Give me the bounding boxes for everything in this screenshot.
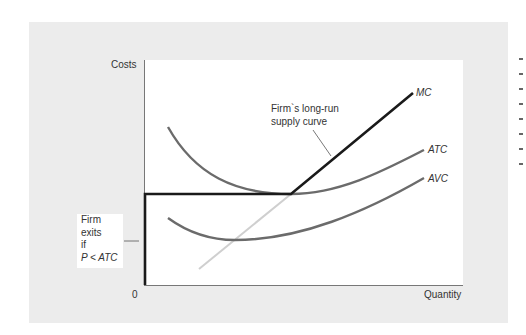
exit-line-3: if <box>77 239 123 252</box>
cost-curves-chart <box>0 0 526 335</box>
avc-label: AVC <box>428 173 448 184</box>
mc-label: MC <box>416 87 432 98</box>
supply-annotation-line2: supply curve <box>271 116 327 127</box>
exit-line-4: P < ATC <box>77 252 123 265</box>
origin-label: 0 <box>132 289 138 300</box>
cropped-caption-text <box>519 58 526 178</box>
atc-label: ATC <box>428 144 447 155</box>
exit-annotation: Firm exits if P < ATC <box>77 214 123 268</box>
supply-leader-line <box>313 130 331 156</box>
exit-line-2: exits <box>77 227 123 240</box>
avc-curve <box>168 178 424 240</box>
atc-curve <box>168 127 424 194</box>
x-axis-label: Quantity <box>424 289 461 300</box>
mc-curve-lower <box>199 194 291 269</box>
y-axis-label: Costs <box>111 59 137 70</box>
exit-line-1: Firm <box>77 214 123 227</box>
supply-annotation-line1: Firm`s long-run <box>271 103 339 114</box>
